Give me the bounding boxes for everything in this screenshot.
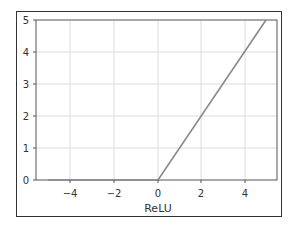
svg-text:0: 0: [23, 175, 29, 186]
x-tick-labels: −4 −2 0 2 4: [63, 188, 249, 199]
y-tick-labels: 0 1 2 3 4 5: [23, 15, 29, 186]
svg-text:−2: −2: [107, 188, 122, 199]
svg-text:1: 1: [23, 143, 29, 154]
svg-text:−4: −4: [63, 188, 78, 199]
grid: [36, 20, 277, 180]
svg-text:2: 2: [23, 111, 29, 122]
plot-area: [36, 20, 277, 180]
svg-text:4: 4: [23, 47, 29, 58]
relu-chart: −4 −2 0 2 4 0 1 2 3 4 5 ReLU: [0, 0, 298, 230]
x-axis-label: ReLU: [144, 202, 172, 215]
relu-line: [48, 20, 266, 180]
svg-text:4: 4: [242, 188, 248, 199]
svg-text:3: 3: [23, 79, 29, 90]
svg-text:5: 5: [23, 15, 29, 26]
svg-text:2: 2: [198, 188, 204, 199]
svg-text:0: 0: [155, 188, 161, 199]
